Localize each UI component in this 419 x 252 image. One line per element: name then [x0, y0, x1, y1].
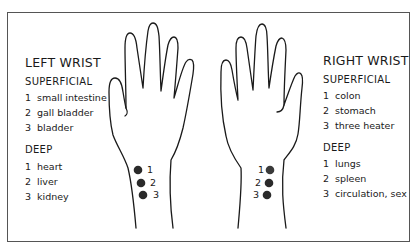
right-pulse-dot-1 — [266, 166, 275, 175]
left-pulse-dot-1 — [134, 166, 143, 175]
right-pulse-points — [263, 166, 275, 200]
left-pulse-dot-3 — [139, 191, 148, 200]
right-hand-outline — [221, 24, 303, 228]
left-pulse-label-2: 2 — [150, 177, 156, 188]
left-pulse-points — [134, 166, 148, 200]
left-pulse-label-3: 3 — [153, 189, 159, 200]
right-pulse-label-2: 2 — [255, 177, 261, 188]
left-pulse-label-1: 1 — [147, 164, 153, 175]
right-pulse-dot-3 — [263, 191, 272, 200]
left-pulse-dot-2 — [137, 179, 146, 188]
right-pulse-label-3: 3 — [253, 189, 259, 200]
hands-illustration — [0, 0, 419, 252]
left-hand-outline — [109, 23, 194, 228]
right-pulse-dot-2 — [265, 179, 274, 188]
right-pulse-label-1: 1 — [258, 164, 264, 175]
